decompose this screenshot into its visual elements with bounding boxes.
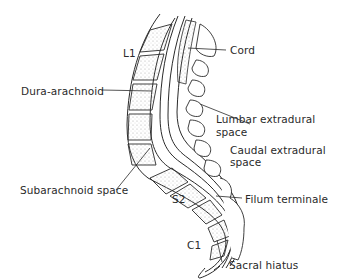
spine-illustration — [0, 0, 339, 280]
label-lumbar-extradural-space: space — [216, 126, 247, 138]
label-lumbar-extradural: Lumbar extradural — [216, 113, 315, 125]
label-caudal-extradural-space: space — [230, 156, 261, 168]
label-sacral-hiatus: Sacral hiatus — [229, 259, 298, 271]
label-filum-terminale: Filum terminale — [245, 193, 328, 205]
spine-diagram: L1 Cord Dura-arachnoid Lumbar extradural… — [0, 0, 339, 280]
label-l1: L1 — [123, 47, 136, 59]
label-subarachnoid-space: Subarachnoid space — [20, 184, 128, 196]
label-cord: Cord — [230, 44, 255, 56]
label-dura-arachnoid: Dura-arachnoid — [21, 85, 104, 97]
label-s2: S2 — [172, 193, 186, 205]
label-c1: C1 — [187, 239, 201, 251]
label-caudal-extradural: Caudal extradural — [230, 144, 326, 156]
